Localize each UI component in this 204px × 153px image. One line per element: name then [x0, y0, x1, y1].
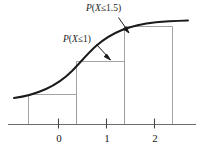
- cdf-plot-canvas: [0, 0, 204, 153]
- annotation-label-p-x-le-1: P(X≤1): [63, 34, 91, 44]
- cdf-figure: P(X≤1.5) P(X≤1) 0 1 2: [0, 0, 204, 153]
- x-tick-label-1: 1: [100, 132, 114, 144]
- cdf-curve: [14, 20, 188, 98]
- x-tick-label-0: 0: [52, 132, 66, 144]
- arrow-head-p-x-le-1: [104, 54, 110, 60]
- annotation-close-paren-p15: ): [118, 3, 121, 13]
- x-tick-label-2: 2: [148, 132, 162, 144]
- annotation-close-paren-p1: ): [88, 34, 91, 44]
- step-rect-2: [77, 62, 125, 125]
- step-rect-1: [29, 95, 77, 125]
- annotation-value-p15: 1.5: [106, 3, 118, 13]
- annotation-arrow-p-x-le-1: [97, 45, 111, 61]
- step-rect-3: [125, 27, 173, 125]
- x-axis-ticks: [59, 119, 155, 129]
- annotation-label-p-x-le-1-point-5: P(X≤1.5): [86, 3, 121, 13]
